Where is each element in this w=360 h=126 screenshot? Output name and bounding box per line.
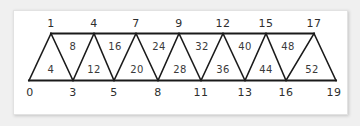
top-chord-node-labels: 1 4 7 9 12 15 17 — [47, 17, 321, 30]
node-label-top-3: 9 — [175, 17, 182, 30]
member-label-upper-2: 24 — [152, 41, 166, 52]
member-label-lower-6: 52 — [305, 64, 319, 75]
truss-diagram: 1 4 7 9 12 15 17 0 3 5 8 11 13 16 19 4 1… — [14, 11, 349, 116]
diagram-card: 1 4 7 9 12 15 17 0 3 5 8 11 13 16 19 4 1… — [13, 10, 348, 115]
node-label-top-1: 4 — [90, 17, 97, 30]
node-label-bottom-6: 16 — [279, 86, 294, 99]
node-label-bottom-1: 3 — [69, 86, 76, 99]
node-label-top-6: 17 — [307, 17, 322, 30]
member-label-lower-3: 28 — [173, 64, 187, 75]
member-label-upper-1: 16 — [108, 41, 122, 52]
node-label-bottom-3: 8 — [154, 86, 161, 99]
member-label-upper-0: 8 — [70, 41, 77, 52]
member-label-lower-4: 36 — [216, 64, 230, 75]
node-label-bottom-0: 0 — [26, 86, 33, 99]
node-label-bottom-5: 13 — [238, 86, 253, 99]
node-label-bottom-7: 19 — [327, 86, 342, 99]
node-label-bottom-4: 11 — [194, 86, 209, 99]
node-label-top-2: 7 — [132, 17, 139, 30]
member-label-upper-4: 40 — [238, 41, 252, 52]
member-label-lower-1: 12 — [87, 64, 101, 75]
node-label-top-0: 1 — [47, 17, 54, 30]
node-label-top-4: 12 — [216, 17, 231, 30]
node-label-top-5: 15 — [259, 17, 274, 30]
member-label-lower-2: 20 — [130, 64, 144, 75]
member-label-upper-5: 48 — [281, 41, 295, 52]
member-labels-lower: 4 12 20 28 36 44 52 — [48, 64, 319, 75]
member-label-lower-5: 44 — [259, 64, 273, 75]
bottom-chord-node-labels: 0 3 5 8 11 13 16 19 — [26, 86, 341, 99]
node-label-bottom-2: 5 — [110, 86, 117, 99]
member-label-upper-3: 32 — [195, 41, 209, 52]
member-label-lower-0: 4 — [48, 64, 55, 75]
